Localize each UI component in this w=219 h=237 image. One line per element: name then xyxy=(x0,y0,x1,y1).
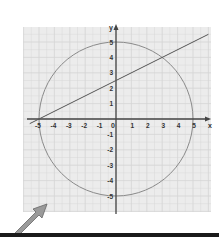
y-tick-label: 2 xyxy=(109,85,113,92)
x-tick-label: -5 xyxy=(35,122,41,129)
bottom-bar xyxy=(0,233,219,237)
y-tick-label: -4 xyxy=(107,177,113,184)
coordinate-plane: xy0-5-4-3-2-11234554321-1-2-3-4-5 xyxy=(0,0,219,237)
y-tick-label: -3 xyxy=(107,162,113,169)
x-tick-label: -3 xyxy=(66,122,72,129)
x-tick-label: 4 xyxy=(177,122,181,129)
y-tick-label: 3 xyxy=(109,69,113,76)
y-tick-label: 5 xyxy=(109,39,113,46)
x-tick-label: 5 xyxy=(192,122,196,129)
y-tick-label: 1 xyxy=(109,100,113,107)
y-tick-label: -1 xyxy=(107,131,113,138)
y-tick-label: -2 xyxy=(107,146,113,153)
x-tick-label: -2 xyxy=(81,122,87,129)
x-tick-label: 3 xyxy=(161,122,165,129)
graph-figure: xy0-5-4-3-2-11234554321-1-2-3-4-5 xyxy=(0,0,219,237)
y-tick-label: -5 xyxy=(107,193,113,200)
x-tick-label: -1 xyxy=(97,122,103,129)
y-axis-label: y xyxy=(109,24,113,32)
x-axis-label: x xyxy=(208,122,212,129)
y-tick-label: 4 xyxy=(109,54,113,61)
x-tick-label: 1 xyxy=(131,122,135,129)
x-tick-label: 2 xyxy=(146,122,150,129)
origin-label: 0 xyxy=(111,122,115,129)
x-tick-label: -4 xyxy=(51,122,57,129)
